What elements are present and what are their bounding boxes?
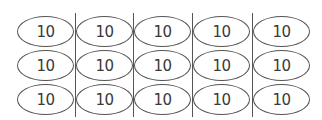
ellipse-r1-c2: 10	[76, 16, 133, 47]
ellipse-r1-c1: 10	[17, 16, 74, 47]
ellipse-grid-diagram: 10 10 10 10 10 10 10 10 10 10 10 10 10 1…	[0, 0, 322, 120]
ellipse-r2-c3: 10	[134, 50, 191, 81]
ellipse-r3-c1: 10	[17, 84, 74, 115]
ellipse-r2-c2: 10	[76, 50, 133, 81]
ellipse-r3-c3: 10	[134, 84, 191, 115]
ellipse-r3-c2: 10	[76, 84, 133, 115]
ellipse-r3-c5: 10	[253, 84, 310, 115]
ellipse-r2-c4: 10	[193, 50, 250, 81]
ellipse-r1-c3: 10	[134, 16, 191, 47]
ellipse-r1-c4: 10	[193, 16, 250, 47]
ellipse-r1-c5: 10	[253, 16, 310, 47]
ellipse-r2-c5: 10	[253, 50, 310, 81]
ellipse-r3-c4: 10	[193, 84, 250, 115]
ellipse-r2-c1: 10	[17, 50, 74, 81]
